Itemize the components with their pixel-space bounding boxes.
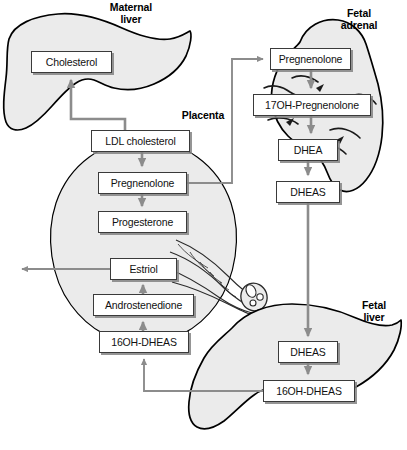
node-progesterone[interactable]: Progesterone bbox=[98, 211, 187, 233]
node-16oh-dheas-placenta[interactable]: 16OH-DHEAS bbox=[99, 331, 189, 353]
node-ldl-cholesterol[interactable]: LDL cholesterol bbox=[91, 130, 190, 152]
node-dhea[interactable]: DHEA bbox=[278, 139, 338, 161]
node-16oh-dheas-fetal-liver[interactable]: 16OH-DHEAS bbox=[263, 380, 355, 402]
node-androstenedione[interactable]: Androstenedione bbox=[93, 294, 194, 316]
organ-label-fetal-adrenal: Fetal adrenal bbox=[330, 8, 388, 31]
node-dheas-fetal-liver[interactable]: DHEAS bbox=[278, 341, 338, 363]
node-17oh-pregnenolone[interactable]: 17OH-Pregnenolone bbox=[253, 94, 371, 116]
node-estriol[interactable]: Estriol bbox=[110, 258, 177, 280]
organ-label-placenta: Placenta bbox=[175, 110, 231, 122]
node-pregnenolone-adrenal[interactable]: Pregnenolone bbox=[270, 48, 351, 70]
node-dheas-adrenal[interactable]: DHEAS bbox=[276, 181, 340, 203]
organ-label-fetal-liver: Fetal liver bbox=[353, 300, 395, 323]
steroidogenesis-diagram: Maternal liver Placenta Fetal adrenal Fe… bbox=[0, 0, 407, 450]
organ-label-maternal-liver: Maternal liver bbox=[104, 2, 158, 25]
node-pregnenolone-placenta[interactable]: Pregnenolone bbox=[98, 172, 187, 194]
node-cholesterol[interactable]: Cholesterol bbox=[31, 51, 112, 73]
